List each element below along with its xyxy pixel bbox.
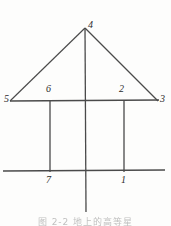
point-label-2: 2 <box>119 84 124 94</box>
point-label-6: 6 <box>46 84 51 94</box>
figure-page: 4 5 6 2 3 7 1 图 2-2 地上的高等星 <box>0 0 171 226</box>
point-label-5: 5 <box>4 94 9 104</box>
segments-group <box>3 28 165 212</box>
figure-caption: 图 2-2 地上的高等星 <box>0 215 171 226</box>
point-label-1: 1 <box>121 175 126 185</box>
lower-horizontal-line <box>3 170 165 171</box>
center-vertical-axis <box>85 28 86 212</box>
point-label-7: 7 <box>46 175 51 185</box>
point-label-3: 3 <box>160 94 165 104</box>
point-label-4: 4 <box>88 20 93 30</box>
upper-horizontal-line <box>10 100 159 101</box>
geometry-figure <box>0 0 171 226</box>
